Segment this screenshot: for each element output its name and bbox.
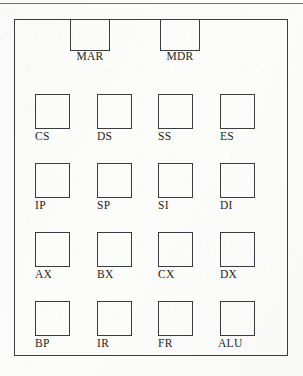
register-box-fr <box>158 301 193 336</box>
register-label-fr: FR <box>158 337 173 350</box>
register-box-cs <box>35 94 70 129</box>
register-box-cx <box>158 232 193 267</box>
register-box-bx <box>97 232 132 267</box>
register-box-ss <box>158 94 193 129</box>
register-box-ax <box>35 232 70 267</box>
register-box-mdr <box>160 19 200 51</box>
register-label-si: SI <box>158 199 169 212</box>
register-box-es <box>220 94 255 129</box>
register-label-sp: SP <box>97 199 110 212</box>
register-box-mar <box>70 19 110 51</box>
register-label-ss: SS <box>158 130 171 143</box>
register-box-di <box>220 163 255 198</box>
register-box-dx <box>220 232 255 267</box>
register-label-bp: BP <box>35 337 50 350</box>
register-label-ds: DS <box>97 130 112 143</box>
register-label-alu: ALU <box>218 337 243 350</box>
register-label-di: DI <box>220 199 233 212</box>
register-label-cx: CX <box>158 268 175 281</box>
register-box-ds <box>97 94 132 129</box>
register-label-ip: IP <box>35 199 46 212</box>
register-box-bp <box>35 301 70 336</box>
register-box-sp <box>97 163 132 198</box>
register-box-alu <box>220 301 255 336</box>
register-label-mar: MAR <box>61 50 119 63</box>
register-box-si <box>158 163 193 198</box>
register-box-ir <box>97 301 132 336</box>
register-label-bx: BX <box>97 268 114 281</box>
register-label-dx: DX <box>220 268 237 281</box>
register-label-mdr: MDR <box>151 50 209 63</box>
register-label-es: ES <box>220 130 234 143</box>
register-label-cs: CS <box>35 130 50 143</box>
register-box-ip <box>35 163 70 198</box>
page-top-rule <box>0 3 303 4</box>
register-label-ax: AX <box>35 268 52 281</box>
scanned-page: MAR MDR CS DS SS ES IP SP SI DI AX BX CX… <box>0 0 303 376</box>
register-label-ir: IR <box>97 337 109 350</box>
cpu-outer-box: MAR MDR CS DS SS ES IP SP SI DI AX BX CX… <box>14 19 288 356</box>
